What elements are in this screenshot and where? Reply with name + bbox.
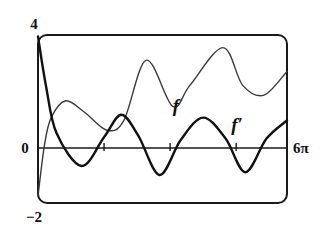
plot-frame xyxy=(38,35,287,203)
y-label-top: 4 xyxy=(30,16,38,32)
y-label-bottom: −2 xyxy=(26,209,42,225)
curve-label-f-prime: f′ xyxy=(231,114,243,135)
y-label-zero: 0 xyxy=(21,140,29,156)
curve-label-f: f xyxy=(173,95,181,116)
chart: 4 0 −2 6π f f′ xyxy=(0,0,326,234)
x-ticks xyxy=(104,143,236,151)
x-label-right: 6π xyxy=(293,140,310,156)
